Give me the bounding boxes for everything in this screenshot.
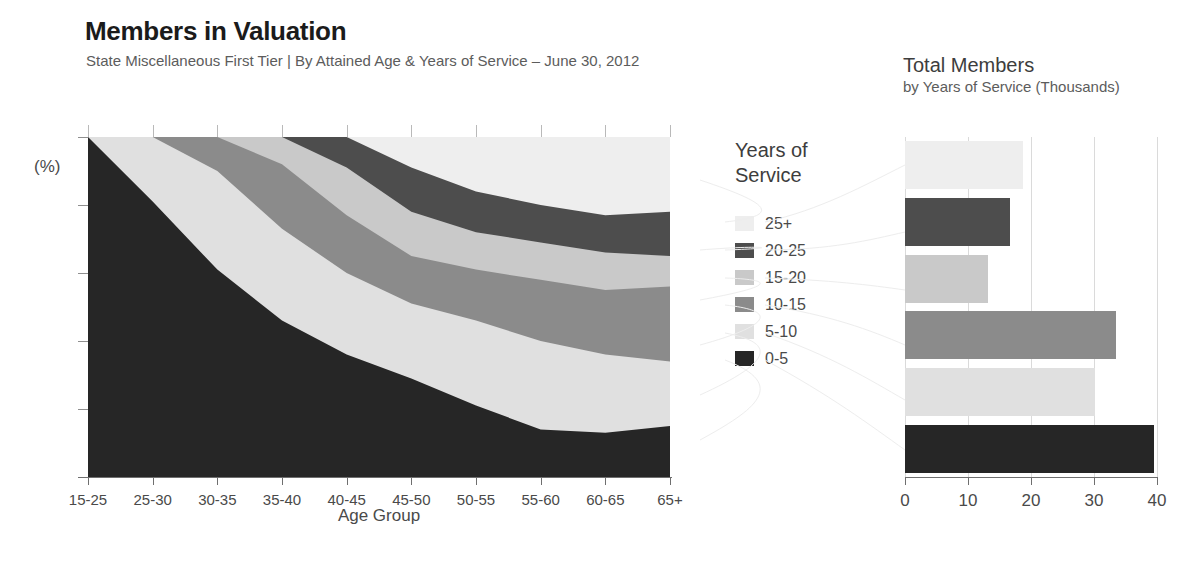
legend-swatch-icon [735,324,754,339]
chart-page: Members in Valuation State Miscellaneous… [0,0,1190,576]
x-axis-tick-label: 65+ [657,491,682,508]
x-axis-gridline [605,125,606,137]
bar-axis-tick-label: 10 [959,491,978,511]
bar-0-5[interactable] [905,425,1154,473]
y-axis-unit-label: (%) [34,157,60,177]
x-axis-tick-mark [411,477,412,485]
bar-axis-tick-mark [905,477,906,485]
bar-axis-tick-label: 0 [900,491,909,511]
legend-item[interactable]: 15-20 [735,264,885,291]
x-axis-gridline [217,125,218,137]
x-axis-tick-mark [282,477,283,485]
x-axis-tick-label: 35-40 [263,491,301,508]
x-axis-tick-label: 60-65 [586,491,624,508]
x-axis-title: Age Group [338,506,420,526]
y-axis-tick-mark [78,341,88,342]
x-axis-line [78,477,672,478]
x-axis-tick-mark [476,477,477,485]
legend-swatch-icon [735,351,754,366]
legend-title-line1: Years of [735,138,885,163]
bar-chart: 010203040 [890,0,1190,576]
x-axis-tick-mark [670,477,671,485]
legend-swatch-icon [735,270,754,285]
legend-item[interactable]: 10-15 [735,291,885,318]
x-axis-tick-mark [347,477,348,485]
x-axis-tick-mark [217,477,218,485]
stacked-area-chart: 02040608010015-2525-3030-3535-4040-4545-… [0,0,700,576]
legend-item-label: 10-15 [765,296,806,314]
x-axis-tick-label: 55-60 [521,491,559,508]
legend-item[interactable]: 25+ [735,210,885,237]
bar-10-15[interactable] [905,311,1116,359]
area-plot-region [88,137,670,477]
bar-axis-tick-mark [1031,477,1032,485]
legend-item-label: 15-20 [765,269,806,287]
x-axis-tick-mark [153,477,154,485]
legend-item-label: 20-25 [765,242,806,260]
legend-swatch-icon [735,297,754,312]
legend-item-list: 25+20-2515-2010-155-100-5 [735,210,885,372]
legend-item[interactable]: 5-10 [735,318,885,345]
legend-item-label: 25+ [765,215,792,233]
x-axis-tick-label: 50-55 [457,491,495,508]
x-axis-gridline [541,125,542,137]
x-axis-gridline [670,125,671,137]
y-axis-tick-mark [78,205,88,206]
legend-item-label: 5-10 [765,323,797,341]
bar-axis-tick-mark [1157,477,1158,485]
legend-item[interactable]: 0-5 [735,345,885,372]
legend-item-label: 0-5 [765,350,788,368]
x-axis-gridline [282,125,283,137]
x-axis-tick-mark [88,477,89,485]
bar-20-25[interactable] [905,198,1010,246]
bar-25+[interactable] [905,141,1023,189]
area-series-svg [88,137,670,477]
bar-axis-tick-label: 30 [1085,491,1104,511]
legend-swatch-icon [735,243,754,258]
bar-15-20[interactable] [905,255,988,303]
legend-item[interactable]: 20-25 [735,237,885,264]
bar-plot-region [905,137,1157,477]
bar-axis-tick-mark [968,477,969,485]
x-axis-tick-mark [605,477,606,485]
x-axis-tick-label: 30-35 [198,491,236,508]
x-axis-gridline [476,125,477,137]
x-axis-gridline [347,125,348,137]
x-axis-gridline [88,125,89,137]
y-axis-tick-mark [78,137,88,138]
bar-5-10[interactable] [905,368,1095,416]
x-axis-tick-label: 15-25 [69,491,107,508]
y-axis-tick-mark [78,409,88,410]
y-axis-tick-mark [78,273,88,274]
bar-axis-tick-mark [1094,477,1095,485]
x-axis-gridline [411,125,412,137]
x-axis-tick-label: 25-30 [133,491,171,508]
legend-swatch-icon [735,216,754,231]
bar-axis-tick-label: 40 [1148,491,1167,511]
bar-gridline [1157,137,1158,477]
legend-title-line2: Service [735,163,885,188]
bar-axis-tick-label: 20 [1022,491,1041,511]
x-axis-tick-mark [541,477,542,485]
x-axis-gridline [153,125,154,137]
legend: Years of Service 25+20-2515-2010-155-100… [735,138,885,372]
